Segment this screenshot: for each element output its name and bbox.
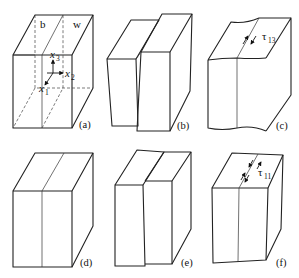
stress-tau11-sub: 11 — [264, 172, 271, 181]
shear-stress-arrows — [243, 36, 256, 44]
panel-e: (e) — [115, 150, 193, 269]
region-label-b: b — [40, 18, 46, 30]
axis-x3-label: x — [49, 48, 55, 60]
panel-e-caption: (e) — [181, 257, 193, 269]
axis-x3-sub: 3 — [56, 54, 60, 63]
region-label-w: w — [73, 18, 81, 30]
panel-a-caption: (a) — [79, 119, 91, 131]
stress-tau13-label: τ — [262, 30, 267, 42]
panel-f: τ 11 (f) — [212, 153, 287, 269]
axis-x2-label: x — [64, 67, 70, 79]
axis-x1-label: x — [38, 82, 44, 94]
panel-f-caption: (f) — [276, 257, 287, 269]
stress-tau11-label: τ — [258, 166, 263, 178]
panel-c-caption: (c) — [276, 120, 288, 132]
panel-a: b w x 3 x 2 x 1 (a) — [13, 15, 93, 131]
axis-x2-sub: 2 — [71, 73, 75, 82]
domain-wall-deformation-figure: b w x 3 x 2 x 1 (a) (b) τ 13 (c) — [0, 0, 299, 278]
axis-x1-sub: 1 — [45, 88, 49, 97]
stress-tau13-sub: 13 — [268, 36, 276, 45]
panel-b-caption: (b) — [177, 120, 190, 132]
panel-c: τ 13 (c) — [208, 18, 291, 132]
panel-d: (d) — [13, 153, 93, 269]
panel-d-caption: (d) — [80, 257, 93, 269]
coordinate-axes — [45, 60, 63, 85]
panel-b: (b) — [107, 14, 192, 132]
